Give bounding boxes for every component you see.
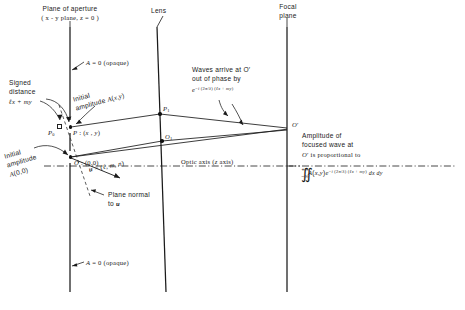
- aperture-plane-title-line2: ( x - y plane, z = 0 ): [14, 13, 126, 22]
- opaque-top-leader: [72, 62, 84, 70]
- opaque-bottom-leader: [72, 262, 84, 267]
- waves-line1: Waves arrive at O′: [192, 65, 250, 74]
- wavefront-lower-ray: [71, 129, 287, 157]
- plane-normal-to-u-dashed: [59, 105, 90, 196]
- opaque-label-bottom: A = 0 (opaque): [86, 258, 129, 267]
- amplitude-line1: Amplitude of: [302, 131, 361, 140]
- ray-from-P: [71, 114, 287, 128]
- lens-title: Lens: [151, 6, 166, 15]
- aperture-plane-title-line1: Plane of aperture: [14, 4, 126, 13]
- lens-line: [157, 27, 166, 292]
- point-marker-P: [69, 125, 72, 128]
- point-label-O-prime: O′: [292, 120, 299, 129]
- aperture-plane-title: Plane of aperture ( x - y plane, z = 0 ): [14, 4, 126, 23]
- amplitude-line2: focused wave at: [302, 140, 361, 149]
- focal-plane-title: Focal plane: [270, 2, 306, 21]
- point-marker-P0: [57, 124, 62, 129]
- signed-distance-label: Signed distance ℓx + my: [9, 78, 36, 106]
- waves-line3: e−i (2π/λ) (ℓx + my): [192, 85, 250, 94]
- integral-formula: +∞ ∬ −∞ A(x,y)e−i (2π/λ) (ℓx + my) dx dy: [300, 167, 383, 179]
- amplitude-proportional-label: Amplitude of focused wave at O′ is propo…: [302, 131, 361, 159]
- point-label-P: P : (x , y): [73, 128, 100, 137]
- plane-normal-label: Plane normal to u: [108, 190, 150, 209]
- waves-line2: out of phase by: [192, 74, 250, 83]
- point-marker-O: [69, 155, 72, 158]
- lens-title-leader: [157, 16, 163, 27]
- point-label-P0: P0: [48, 128, 55, 138]
- optic-axis-label: Optic axis (z axis): [181, 157, 234, 166]
- integral-integrand: A(x,y)e−i (2π/λ) (ℓx + my): [308, 169, 367, 176]
- point-label-O1: O1: [165, 132, 173, 142]
- waves-out-of-phase-label: Waves arrive at O′ out of phase by e−i (…: [192, 65, 250, 94]
- focal-plane-title-line2: plane: [270, 11, 306, 20]
- point-marker-P1: [158, 112, 161, 115]
- plane-normal-leader: [91, 189, 104, 195]
- opaque-label-top: A = 0 (opaque): [86, 58, 129, 67]
- amplitude-line3: O′ is proportional to: [302, 150, 361, 159]
- initial-amplitude-O-leader: [34, 146, 68, 155]
- plane-normal-line1: Plane normal: [108, 190, 150, 199]
- focal-plane-title-line1: Focal: [270, 2, 306, 11]
- signed-distance-line1: Signed: [9, 78, 36, 87]
- signed-distance-line2: distance: [9, 87, 36, 96]
- point-marker-O1: [160, 139, 163, 142]
- signed-distance-line3: ℓx + my: [9, 97, 36, 106]
- integral-differentials: dx dy: [367, 170, 383, 176]
- signed-distance-leaders: [40, 99, 71, 122]
- plane-normal-line2: to u: [108, 199, 150, 208]
- point-label-P1: P1: [163, 104, 170, 114]
- integral-limits: +∞ ∬ −∞: [301, 167, 309, 179]
